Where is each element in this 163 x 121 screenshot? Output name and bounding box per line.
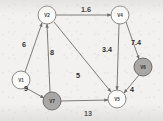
graph-figure: V1 V2 V4 V6 V7 V5 6 8 9 1.6 3.4 7.4 5 13… (0, 0, 163, 121)
edge-weight-v2-v4: 1.6 (81, 5, 91, 14)
graph-canvas: V1 V2 V4 V6 V7 V5 6 8 9 1.6 3.4 7.4 5 13… (0, 0, 163, 121)
edge-v2-v5 (54, 22, 111, 92)
edge-weight-v6-v5: 4 (130, 85, 134, 94)
edge-v1-v2 (25, 23, 42, 72)
node-v7-label: V7 (49, 99, 55, 104)
edge-weight-v7-v5: 13 (84, 109, 92, 118)
nodes-layer: V1 V2 V4 V6 V7 V5 (12, 6, 152, 110)
edge-weight-v1-v2: 6 (22, 40, 26, 49)
node-v1-label: V1 (18, 78, 24, 83)
node-v5-label: V5 (114, 97, 120, 102)
edges-layer (25, 15, 139, 101)
node-v2-label: V2 (44, 13, 50, 18)
edge-weight-v1-v7: 9 (24, 84, 28, 93)
node-v4-label: V4 (117, 13, 123, 18)
edge-weight-v7-v2: 8 (50, 48, 54, 57)
edge-weight-v4-v6: 7.4 (131, 38, 141, 47)
edge-v7-v2 (47, 24, 50, 92)
edge-weight-v2-v5: 5 (76, 71, 80, 80)
edge-v1-v7 (26, 88, 44, 98)
edge-v4-v5 (117, 24, 119, 90)
edge-weight-v4-v5: 3.4 (102, 45, 112, 54)
edge-v7-v5 (61, 100, 108, 101)
node-v6-label: V6 (140, 65, 146, 70)
